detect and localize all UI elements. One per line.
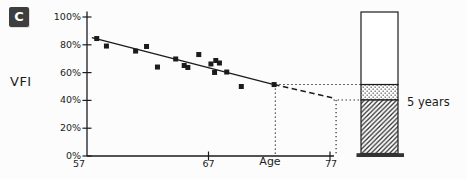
y-axis-title: VFI xyxy=(10,74,32,89)
y-tick-label-60: 60% xyxy=(48,67,81,79)
panel-label-badge: C xyxy=(9,7,29,27)
y-tick-label-80: 80% xyxy=(48,39,81,51)
x-axis-title: Age xyxy=(250,155,290,168)
x-tick-label-77: 77 xyxy=(319,158,343,170)
y-tick-label-40: 40% xyxy=(48,94,81,106)
x-tick-label-57: 57 xyxy=(67,158,91,170)
vfi-trend-figure: 0%20%40%60%80%100%576777 C VFI Age 5 yea… xyxy=(0,0,466,179)
tick-labels: 0%20%40%60%80%100%576777 xyxy=(0,0,466,179)
x-tick-label-67: 67 xyxy=(197,158,221,170)
y-tick-label-100: 100% xyxy=(48,11,81,23)
y-tick-label-20: 20% xyxy=(48,122,81,134)
bar-annotation-label: 5 years xyxy=(407,95,450,109)
